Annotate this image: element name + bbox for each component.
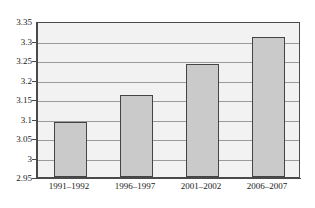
- y-axis-tick-mark: [32, 159, 36, 160]
- x-axis-tick-label: 2006–2007: [247, 182, 288, 191]
- y-axis-tick-mark: [32, 120, 36, 121]
- bar: [54, 122, 87, 177]
- x-axis-tick-label: 2001–2002: [181, 182, 222, 191]
- y-axis-tick-label: 3.25: [16, 57, 32, 66]
- y-axis-tick-label: 3.05: [16, 135, 32, 144]
- y-axis-line: [36, 22, 38, 179]
- bar: [186, 64, 219, 177]
- y-axis-tick-label: 3.1: [21, 115, 32, 124]
- bars-layer: [37, 23, 299, 177]
- x-axis-tick-labels: 1991–19921996–19972001–20022006–2007: [36, 182, 300, 200]
- y-axis-tick-mark: [32, 139, 36, 140]
- y-axis-tick-mark: [32, 61, 36, 62]
- y-axis-tick-labels: 2.9533.053.13.153.23.253.33.35: [0, 22, 32, 178]
- y-axis-tick-label: 3.2: [21, 76, 32, 85]
- x-axis-tick-label: 1996–1997: [115, 182, 156, 191]
- x-axis-tick-label: 1991–1992: [49, 182, 90, 191]
- plot-area: [36, 22, 300, 178]
- y-axis-tick-label: 2.95: [16, 174, 32, 183]
- y-axis-tick-label: 3.3: [21, 37, 32, 46]
- y-axis-tick-mark: [32, 178, 36, 179]
- y-axis-tick-mark: [32, 81, 36, 82]
- bar-chart: 2.9533.053.13.153.23.253.33.35 1991–1992…: [0, 0, 315, 208]
- bar: [252, 37, 285, 177]
- y-axis-tick-mark: [32, 100, 36, 101]
- x-axis-line: [36, 178, 301, 179]
- bar: [120, 95, 153, 177]
- y-axis-tick-label: 3.15: [16, 96, 32, 105]
- y-axis-tick-mark: [32, 42, 36, 43]
- y-axis-tick-label: 3.35: [16, 18, 32, 27]
